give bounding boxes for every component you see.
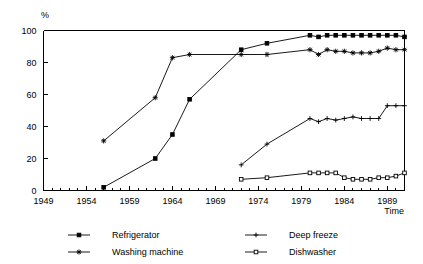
legend-label: Washing machine <box>112 247 183 257</box>
marker-asterisk <box>402 47 407 52</box>
data-point-asterisk <box>385 46 390 51</box>
data-point-asterisk <box>359 50 364 55</box>
marker-plus <box>316 119 321 124</box>
marker-asterisk <box>359 50 364 55</box>
marker-filled-square <box>265 42 269 46</box>
x-tick-label: 1989 <box>377 196 397 206</box>
marker-plus <box>351 115 356 120</box>
marker-filled-square <box>308 34 312 38</box>
data-point-plus <box>359 116 364 121</box>
marker-filled-square <box>394 34 398 38</box>
data-point-asterisk <box>350 50 355 55</box>
data-point-asterisk <box>393 47 398 52</box>
marker-asterisk <box>376 49 381 54</box>
data-point-filled-square <box>239 48 243 52</box>
marker-asterisk <box>153 95 158 100</box>
x-tick-label: 1959 <box>119 196 139 206</box>
legend-label: Deep freeze <box>289 230 338 240</box>
data-point-open-square <box>308 171 312 175</box>
marker-asterisk <box>187 52 192 57</box>
marker-filled-square <box>153 157 157 161</box>
data-point-asterisk <box>239 52 244 57</box>
marker-filled-square <box>351 34 355 38</box>
marker-filled-square <box>77 233 81 237</box>
y-tick-label: 80 <box>26 58 36 68</box>
data-point-plus <box>308 116 313 121</box>
marker-open-square <box>351 178 355 182</box>
data-point-asterisk <box>368 50 373 55</box>
marker-asterisk <box>76 249 81 254</box>
x-tick-label: 1954 <box>76 196 96 206</box>
marker-plus <box>333 118 338 123</box>
data-point-plus <box>402 103 407 108</box>
marker-open-square <box>343 176 347 180</box>
data-point-filled-square <box>377 34 381 38</box>
marker-open-square <box>265 176 269 180</box>
marker-filled-square <box>403 35 407 39</box>
data-point-asterisk <box>170 55 175 60</box>
data-point-asterisk <box>76 249 81 254</box>
data-point-asterisk <box>325 47 330 52</box>
data-point-open-square <box>403 171 407 175</box>
data-point-filled-square <box>77 233 81 237</box>
marker-open-square <box>360 178 364 182</box>
y-axis-tick-labels: 020406080100 <box>21 26 36 196</box>
marker-filled-square <box>171 133 175 137</box>
marker-asterisk <box>325 47 330 52</box>
data-point-plus <box>376 116 381 121</box>
data-point-open-square <box>317 171 321 175</box>
data-point-filled-square <box>343 34 347 38</box>
marker-plus <box>308 116 313 121</box>
data-point-plus <box>351 115 356 120</box>
marker-open-square <box>254 250 258 254</box>
marker-filled-square <box>317 35 321 39</box>
data-point-plus <box>385 103 390 108</box>
data-point-filled-square <box>153 157 157 161</box>
legend-item-dishwasher: Dishwasher <box>245 247 336 257</box>
x-tick-label: 1979 <box>291 196 311 206</box>
data-point-open-square <box>325 171 329 175</box>
y-tick-label: 60 <box>26 90 36 100</box>
data-point-asterisk <box>187 52 192 57</box>
marker-asterisk <box>350 50 355 55</box>
series-refrigerator <box>102 34 406 190</box>
y-axis-ticks <box>44 31 48 191</box>
data-point-plus <box>342 116 347 121</box>
data-point-filled-square <box>171 133 175 137</box>
marker-asterisk <box>385 46 390 51</box>
data-point-open-square <box>368 178 372 182</box>
legend-label: Refrigerator <box>112 230 160 240</box>
x-axis-tick-labels: 194919541959196419691974197919841989 <box>33 196 397 206</box>
marker-filled-square <box>239 48 243 52</box>
marker-filled-square <box>334 34 338 38</box>
data-point-filled-square <box>265 42 269 46</box>
data-point-plus <box>316 119 321 124</box>
series-line <box>104 48 405 141</box>
data-point-open-square <box>394 174 398 178</box>
marker-plus <box>359 116 364 121</box>
chart-container: 194919541959196419691974197919841989 020… <box>0 0 423 264</box>
marker-plus <box>394 103 399 108</box>
marker-asterisk <box>101 138 106 143</box>
data-point-asterisk <box>316 52 321 57</box>
x-tick-label: 1964 <box>162 196 182 206</box>
marker-open-square <box>368 178 372 182</box>
marker-open-square <box>377 176 381 180</box>
legend-item-deep-freeze: Deep freeze <box>245 230 338 240</box>
marker-plus <box>385 103 390 108</box>
data-point-plus <box>325 116 330 121</box>
x-axis-title: Time <box>384 206 404 216</box>
data-point-filled-square <box>386 34 390 38</box>
y-tick-label: 100 <box>21 26 36 36</box>
marker-open-square <box>325 171 329 175</box>
marker-filled-square <box>386 34 390 38</box>
marker-filled-square <box>325 34 329 38</box>
data-point-asterisk <box>264 52 269 57</box>
marker-asterisk <box>316 52 321 57</box>
data-point-open-square <box>377 176 381 180</box>
data-point-open-square <box>343 176 347 180</box>
data-point-plus <box>394 103 399 108</box>
x-axis-ticks <box>44 186 405 191</box>
marker-filled-square <box>343 34 347 38</box>
marker-asterisk <box>342 49 347 54</box>
